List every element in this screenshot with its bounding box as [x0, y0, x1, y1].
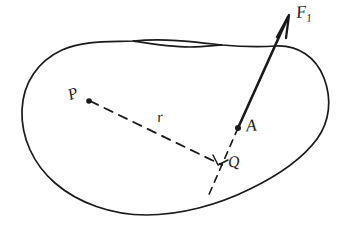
label-force-f1: F1	[295, 2, 313, 21]
label-point-q: Q	[227, 153, 241, 170]
rigid-body-outline	[22, 40, 329, 215]
label-point-a: A	[245, 117, 257, 135]
point-marker-a	[235, 125, 241, 131]
diagram-svg	[0, 0, 338, 236]
point-marker-p	[86, 98, 92, 104]
force-vector-arrowhead	[277, 15, 289, 38]
label-force-subscript: 1	[305, 11, 312, 24]
force-vector-shaft	[238, 17, 288, 128]
figure-canvas: F1 A P Q r	[0, 0, 338, 236]
